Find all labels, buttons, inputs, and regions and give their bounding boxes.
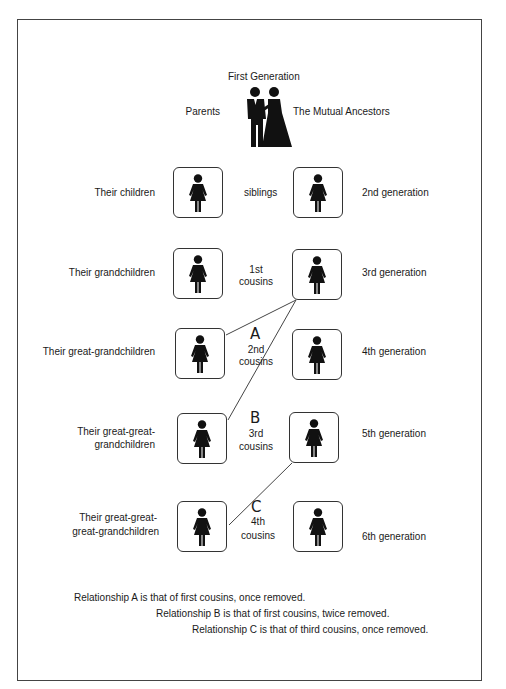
woman-icon: [307, 256, 327, 294]
row-5-middle-1: 4th: [238, 516, 278, 528]
note-relationship-b: Relationship B is that of first cousins,…: [156, 608, 389, 620]
row-5-middle-2: cousins: [238, 530, 278, 542]
row-4-left-label-2: grandchildren: [40, 439, 155, 451]
row-2-middle-2: cousins: [236, 276, 276, 288]
note-relationship-c: Relationship C is that of third cousins,…: [192, 624, 428, 636]
woman-icon: [188, 174, 208, 212]
row-5-left-label-1: Their great-great-: [40, 512, 157, 524]
row-2-right-person: [292, 249, 342, 300]
row-4-left-label-1: Their great-great-: [40, 426, 155, 438]
row-2-left-person: [173, 248, 223, 299]
row-3-middle-1: 2nd: [236, 344, 276, 356]
woman-icon: [304, 419, 324, 457]
woman-icon: [188, 255, 208, 293]
woman-icon: [192, 508, 212, 546]
row-2-middle-1: 1st: [236, 264, 276, 276]
row-3-left-person: [175, 328, 225, 379]
relationship-a-line: [226, 300, 296, 335]
woman-icon: [307, 336, 327, 374]
row-4-left-person: [177, 413, 227, 464]
row-5-right-person: [293, 501, 343, 552]
row-2-generation-label: 3rd generation: [362, 267, 427, 279]
woman-icon: [192, 420, 212, 458]
row-4-middle-2: cousins: [236, 441, 276, 453]
row-3-generation-label: 4th generation: [362, 346, 426, 358]
row-4-middle-1: 3rd: [236, 428, 276, 440]
row-2-left-label: Their grandchildren: [40, 267, 155, 279]
relationship-b-letter: B: [250, 409, 260, 427]
row-5-left-label-2: great-grandchildren: [40, 526, 159, 538]
row-4-generation-label: 5th generation: [362, 428, 426, 440]
row-5-generation-label: 6th generation: [362, 531, 426, 543]
note-relationship-a: Relationship A is that of first cousins,…: [74, 592, 305, 604]
woman-icon: [308, 508, 328, 546]
row-1-left-person: [173, 167, 223, 218]
row-1-generation-label: 2nd generation: [362, 187, 429, 199]
row-4-right-person: [289, 412, 339, 463]
row-1-right-person: [293, 167, 343, 218]
siblings-label: siblings: [244, 187, 277, 199]
woman-icon: [190, 335, 210, 373]
relationship-a-letter: A: [250, 325, 260, 343]
row-3-left-label: Their great-grandchildren: [20, 346, 155, 358]
relationship-c-letter: C: [251, 498, 261, 516]
row-3-right-person: [292, 329, 342, 380]
woman-icon: [308, 174, 328, 212]
row-5-left-person: [177, 501, 227, 552]
row-3-middle-2: cousins: [236, 356, 276, 368]
row-1-left-label: Their children: [40, 187, 155, 199]
